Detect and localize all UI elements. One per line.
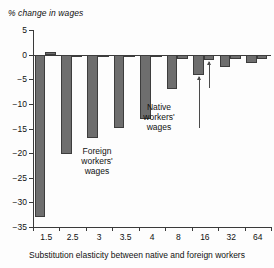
y-tick-mark [29, 30, 33, 31]
y-tick-label: −20 [13, 149, 27, 158]
y-axis-title: % change in wages [8, 8, 83, 18]
x-tick-mark [112, 227, 113, 231]
annotation-line: Native [143, 102, 174, 112]
bar-foreign-workers [220, 55, 231, 68]
plot-area: 50−5−10−15−20−25−30−35 1.52.533.54816326… [33, 30, 271, 227]
bar-foreign-workers [61, 55, 72, 154]
annotation-line: workers' [143, 112, 174, 122]
y-tick-mark [29, 202, 33, 203]
annotation-line: wages [81, 166, 112, 176]
y-tick-mark [29, 178, 33, 179]
bar-native-workers [204, 55, 215, 60]
x-axis-title: Substitution elasticity between native a… [0, 250, 274, 260]
y-tick-mark [29, 153, 33, 154]
bar-native-workers [124, 55, 135, 57]
y-tick-label: −30 [13, 198, 27, 207]
bar-foreign-workers [246, 55, 257, 63]
y-tick-mark [29, 104, 33, 105]
x-tick-label: 2.5 [67, 233, 79, 242]
y-tick-label: 0 [22, 50, 27, 59]
x-tick-label: 16 [200, 233, 209, 242]
x-tick-label: 64 [253, 233, 262, 242]
x-tick-label: 1.5 [40, 233, 52, 242]
x-tick-label: 3.5 [120, 233, 132, 242]
y-tick-label: −35 [13, 223, 27, 232]
x-tick-label: 8 [176, 233, 181, 242]
foreign-workers-annotation: Foreignworkers'wages [81, 146, 112, 176]
chart-figure: % change in wages 50−5−10−15−20−25−30−35… [0, 0, 274, 268]
x-tick-label: 32 [227, 233, 236, 242]
bar-native-workers [72, 55, 83, 57]
annotation-line: Foreign [81, 146, 112, 156]
bar-foreign-workers [35, 55, 46, 218]
y-tick-label: −15 [13, 124, 27, 133]
y-tick-label: 5 [22, 26, 27, 35]
bar-native-workers [177, 55, 188, 59]
bar-foreign-workers [114, 55, 125, 128]
y-tick-label: −10 [13, 100, 27, 109]
x-tick-mark [218, 227, 219, 231]
x-tick-mark [245, 227, 246, 231]
annotation-line: wages [143, 122, 174, 132]
bar-foreign-workers [167, 55, 178, 89]
x-tick-mark [139, 227, 140, 231]
bar-native-workers [151, 55, 162, 57]
bar-native-workers [98, 55, 109, 57]
x-tick-mark [59, 227, 60, 231]
foreign-annotation-arrow-icon [199, 77, 200, 128]
bar-foreign-workers [193, 55, 204, 76]
annotation-line: workers' [81, 156, 112, 166]
native-workers-annotation: Nativeworkers'wages [143, 102, 174, 132]
y-tick-mark [29, 55, 33, 56]
bar-native-workers [257, 55, 268, 59]
x-tick-mark [86, 227, 87, 231]
x-tick-mark [192, 227, 193, 231]
bar-native-workers [45, 52, 56, 55]
bar-native-workers [230, 55, 241, 59]
y-tick-label: −25 [13, 174, 27, 183]
y-tick-mark [29, 129, 33, 130]
x-tick-label: 3 [97, 233, 102, 242]
bar-foreign-workers [87, 55, 98, 139]
native-annotation-arrow-icon [209, 62, 210, 88]
x-tick-label: 4 [150, 233, 155, 242]
x-axis-line [33, 227, 271, 228]
x-tick-mark [33, 227, 34, 231]
y-tick-label: −5 [17, 75, 27, 84]
x-tick-mark [271, 227, 272, 231]
x-tick-mark [165, 227, 166, 231]
y-tick-mark [29, 79, 33, 80]
